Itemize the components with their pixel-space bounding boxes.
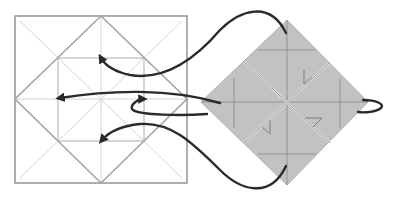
arrow-left <box>60 92 220 103</box>
light-creases <box>15 16 187 183</box>
left-square-crease-pattern <box>15 16 187 183</box>
diamond-shape <box>201 20 368 185</box>
right-folded-diamond <box>201 20 368 185</box>
fold-diagram <box>0 0 403 202</box>
diagram-canvas <box>0 0 403 202</box>
arrow-center-right <box>132 99 207 115</box>
